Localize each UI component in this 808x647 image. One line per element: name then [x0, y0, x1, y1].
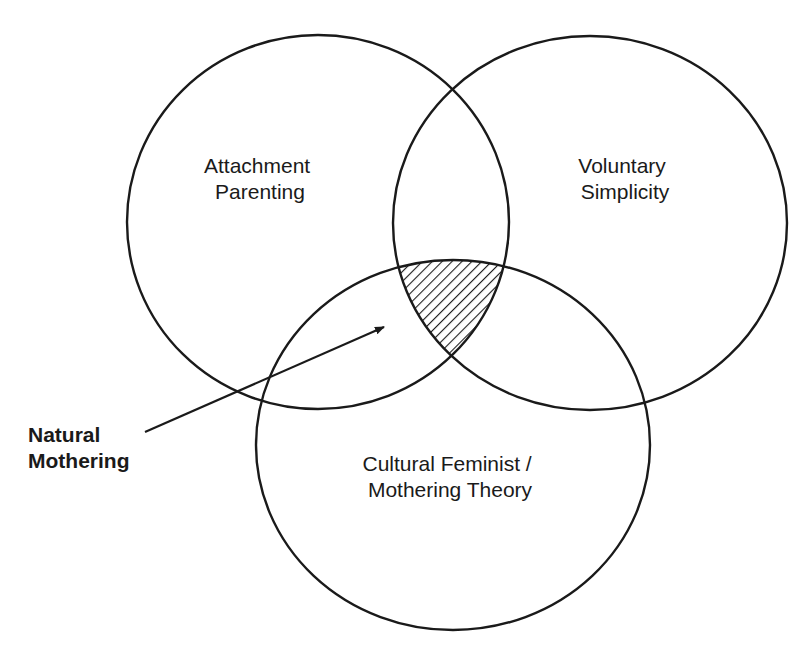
label-attachment-parenting: Attachment Parenting [204, 154, 316, 203]
label-natural-mothering: Natural Mothering [28, 423, 129, 472]
callout-arrow [145, 327, 384, 432]
label-voluntary-simplicity: Voluntary Simplicity [578, 154, 671, 203]
intersection-hatch [256, 260, 650, 630]
venn-diagram: Attachment Parenting Voluntary Simplicit… [0, 0, 808, 647]
label-cultural-feminist: Cultural Feminist / Mothering Theory [362, 452, 537, 501]
